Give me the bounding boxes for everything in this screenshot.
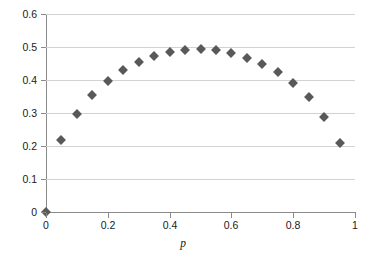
x-tick-label-0.8: 0.8 bbox=[286, 220, 301, 231]
y-tick-label-0.5: 0.5 bbox=[22, 42, 37, 53]
gridline-y-0.2 bbox=[46, 146, 355, 147]
variance-scatter-chart: Variance 00.10.20.30.40.50.600.20.40.60.… bbox=[0, 0, 366, 259]
y-tick-label-0.4: 0.4 bbox=[22, 75, 37, 86]
data-point bbox=[242, 53, 252, 63]
gridline-y-0.4 bbox=[46, 80, 355, 81]
data-point bbox=[226, 48, 236, 58]
y-tick-0.3 bbox=[41, 113, 46, 114]
y-tick-0.4 bbox=[41, 80, 46, 81]
plot-area bbox=[46, 14, 355, 212]
x-tick-0.2 bbox=[108, 213, 109, 218]
gridline-y-0.6 bbox=[46, 14, 355, 15]
y-tick-0.5 bbox=[41, 47, 46, 48]
y-tick-label-0.6: 0.6 bbox=[22, 9, 37, 20]
data-point bbox=[149, 51, 159, 61]
data-point bbox=[304, 93, 314, 103]
y-tick-label-0.3: 0.3 bbox=[22, 108, 37, 119]
data-point bbox=[273, 67, 283, 77]
data-point bbox=[56, 135, 66, 145]
x-tick-label-0.6: 0.6 bbox=[224, 220, 239, 231]
gridline-y-0 bbox=[46, 212, 355, 213]
y-tick-label-0: 0 bbox=[31, 207, 37, 218]
data-point bbox=[103, 76, 113, 86]
x-tick-label-0.4: 0.4 bbox=[163, 220, 178, 231]
x-axis-title: p bbox=[0, 238, 366, 250]
data-point bbox=[257, 59, 267, 69]
data-point bbox=[196, 44, 206, 54]
y-tick-label-0.2: 0.2 bbox=[22, 141, 37, 152]
gridline-y-0.1 bbox=[46, 179, 355, 180]
x-tick-0 bbox=[46, 213, 47, 218]
y-tick-0.2 bbox=[41, 146, 46, 147]
y-tick-label-0.1: 0.1 bbox=[22, 174, 37, 185]
x-tick-0.6 bbox=[231, 213, 232, 218]
x-tick-label-1: 1 bbox=[352, 220, 358, 231]
gridline-y-0.3 bbox=[46, 113, 355, 114]
data-point bbox=[118, 65, 128, 75]
x-tick-1 bbox=[355, 213, 356, 218]
x-tick-label-0.2: 0.2 bbox=[101, 220, 116, 231]
x-tick-0.8 bbox=[293, 213, 294, 218]
x-tick-label-0: 0 bbox=[43, 220, 49, 231]
y-tick-0.1 bbox=[41, 179, 46, 180]
data-point bbox=[134, 57, 144, 67]
data-point bbox=[165, 47, 175, 57]
x-tick-0.4 bbox=[170, 213, 171, 218]
y-tick-0.6 bbox=[41, 14, 46, 15]
data-point bbox=[87, 90, 97, 100]
data-point bbox=[72, 109, 82, 119]
